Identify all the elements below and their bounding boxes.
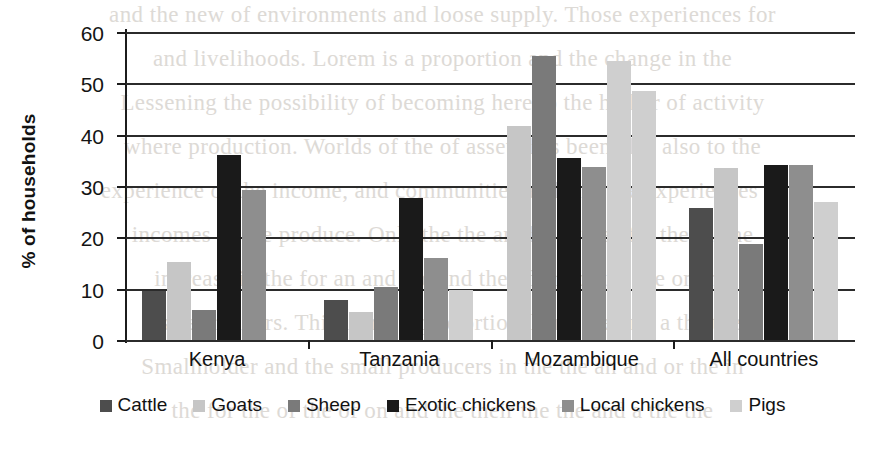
bar bbox=[814, 202, 838, 340]
y-axis-tick-label: 10 bbox=[81, 278, 104, 302]
bar bbox=[399, 198, 423, 340]
legend-item[interactable]: Exotic chickens bbox=[387, 394, 536, 416]
bar bbox=[582, 167, 606, 340]
bar bbox=[714, 168, 738, 340]
bar bbox=[689, 208, 713, 340]
bar bbox=[557, 158, 581, 340]
y-axis-tick: 50 bbox=[117, 83, 126, 85]
bar bbox=[242, 190, 266, 340]
y-axis-tick: 20 bbox=[117, 237, 126, 239]
y-axis-tick-label: 40 bbox=[81, 124, 104, 148]
legend-item-label: Cattle bbox=[118, 394, 168, 416]
legend-swatch-icon bbox=[387, 400, 399, 412]
bar bbox=[217, 155, 241, 340]
legend-item-label: Local chickens bbox=[580, 394, 705, 416]
x-axis-label: Tanzania bbox=[359, 348, 439, 371]
bar bbox=[764, 165, 788, 340]
bar bbox=[374, 287, 398, 340]
bar bbox=[607, 61, 631, 340]
y-axis-tick-label: 0 bbox=[92, 330, 104, 354]
chart-legend: CattleGoatsSheepExotic chickensLocal chi… bbox=[0, 394, 885, 416]
bar bbox=[789, 165, 813, 340]
legend-swatch-icon bbox=[100, 400, 112, 412]
bar bbox=[632, 91, 656, 340]
legend-swatch-icon bbox=[288, 400, 300, 412]
bar bbox=[532, 56, 556, 340]
y-axis-tick: 0 bbox=[117, 340, 126, 342]
legend-item[interactable]: Cattle bbox=[100, 394, 168, 416]
y-axis-tick: 40 bbox=[117, 135, 126, 137]
x-axis-label: Mozambique bbox=[524, 348, 639, 371]
x-axis-label: Kenya bbox=[189, 348, 246, 371]
y-axis-title: % of households bbox=[18, 66, 40, 316]
bar-chart-figure: % of households 0102030405060 KenyaTanza… bbox=[0, 0, 885, 450]
x-axis-category-labels: KenyaTanzaniaMozambiqueAll countries bbox=[126, 348, 855, 378]
legend-item[interactable]: Sheep bbox=[288, 394, 361, 416]
bar bbox=[167, 262, 191, 340]
y-axis-tick: 60 bbox=[117, 32, 126, 34]
bar bbox=[739, 244, 763, 340]
bar bbox=[449, 290, 473, 340]
bar-series-container bbox=[126, 32, 855, 340]
legend-item-label: Sheep bbox=[306, 394, 361, 416]
bar bbox=[142, 291, 166, 340]
bar bbox=[324, 300, 348, 340]
y-axis-tick-label: 60 bbox=[81, 22, 104, 46]
plot-area: 0102030405060 bbox=[126, 32, 855, 340]
y-axis-tick-label: 20 bbox=[81, 227, 104, 251]
legend-swatch-icon bbox=[193, 400, 205, 412]
legend-swatch-icon bbox=[730, 400, 742, 412]
y-axis-tick: 30 bbox=[117, 186, 126, 188]
legend-swatch-icon bbox=[562, 400, 574, 412]
bar bbox=[192, 310, 216, 340]
legend-item[interactable]: Pigs bbox=[730, 394, 785, 416]
y-axis-tick: 10 bbox=[117, 289, 126, 291]
y-axis-tick-label: 30 bbox=[81, 176, 104, 200]
bar bbox=[424, 258, 448, 340]
legend-item-label: Goats bbox=[211, 394, 262, 416]
legend-item-label: Pigs bbox=[748, 394, 785, 416]
x-axis-label: All countries bbox=[709, 348, 818, 371]
legend-item[interactable]: Local chickens bbox=[562, 394, 705, 416]
y-axis-tick-label: 50 bbox=[81, 73, 104, 97]
bar bbox=[507, 126, 531, 340]
legend-item-label: Exotic chickens bbox=[405, 394, 536, 416]
legend-item[interactable]: Goats bbox=[193, 394, 262, 416]
bar bbox=[349, 312, 373, 340]
